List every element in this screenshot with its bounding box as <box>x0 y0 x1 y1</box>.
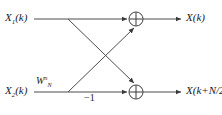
twiddle-superscript: n <box>44 74 47 81</box>
twiddle-subscript: N <box>47 81 51 88</box>
output-top-base: X <box>186 11 193 23</box>
input-label-x2: X2(k) <box>5 85 27 99</box>
output-bottom-argument: (k+N/2) <box>193 84 222 96</box>
input-bottom-base: X <box>5 84 12 96</box>
input-label-x1: X1(k) <box>5 12 27 26</box>
minus-one-label: −1 <box>84 93 95 103</box>
output-bottom-base: X <box>186 84 193 96</box>
fft-butterfly-diagram: X1(k) X2(k) WnN −1 X(k) X(k+N/2) <box>0 0 222 115</box>
input-bottom-argument: (k) <box>15 84 27 96</box>
output-label-x-k: X(k) <box>186 12 205 23</box>
output-label-x-k-plus-n-2: X(k+N/2) <box>186 85 222 96</box>
edge-cross-up-line <box>68 28 134 92</box>
input-top-argument: (k) <box>15 11 27 23</box>
edge-cross-down-line <box>68 19 134 83</box>
twiddle-factor-label: WnN <box>36 75 52 89</box>
input-top-base: X <box>5 11 12 23</box>
output-top-argument: (k) <box>193 11 205 23</box>
